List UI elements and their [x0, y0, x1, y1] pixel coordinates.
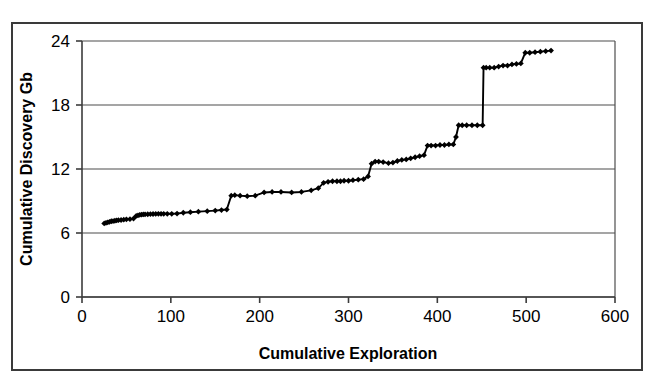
gridlines: [82, 41, 615, 297]
data-point: [399, 157, 405, 163]
y-tick-label-24: 24: [51, 32, 70, 51]
y-tick-label-18: 18: [51, 96, 70, 115]
data-point: [496, 64, 502, 70]
x-tick-label-400: 400: [423, 307, 451, 326]
data-point: [412, 154, 418, 160]
x-tick-label-100: 100: [157, 307, 185, 326]
data-point: [299, 189, 305, 195]
x-tick-label-600: 600: [601, 307, 629, 326]
data-series-group: [101, 48, 554, 227]
series-line-cumulative-discovery: [104, 51, 551, 224]
data-point: [355, 177, 361, 183]
data-point: [180, 210, 186, 216]
data-point: [403, 157, 409, 163]
data-point: [408, 155, 414, 161]
y-tick-label-12: 12: [51, 160, 70, 179]
data-point: [289, 190, 295, 196]
data-point: [537, 49, 543, 55]
data-point: [474, 122, 480, 128]
data-point: [224, 207, 230, 213]
x-axis-ticks: 0100200300400500600: [77, 297, 629, 326]
data-point: [543, 48, 549, 54]
data-point: [453, 134, 459, 140]
data-point: [187, 209, 193, 215]
y-tick-label-6: 6: [61, 224, 70, 243]
data-point: [195, 209, 201, 215]
data-point: [527, 50, 533, 56]
data-point: [464, 122, 470, 128]
data-point: [417, 153, 423, 159]
data-point: [232, 192, 238, 198]
data-point: [380, 159, 386, 165]
figure-container: 06121824 0100200300400500600 Cumulative …: [0, 0, 663, 392]
data-point: [421, 152, 427, 158]
data-point: [204, 208, 210, 214]
data-point: [244, 193, 250, 199]
y-axis-ticks: 06121824: [51, 32, 82, 307]
data-point: [480, 122, 486, 128]
x-tick-label-500: 500: [512, 307, 540, 326]
data-point: [252, 193, 258, 199]
data-point: [548, 48, 554, 54]
x-tick-label-0: 0: [77, 307, 86, 326]
data-point: [350, 177, 356, 183]
data-point: [491, 65, 497, 71]
data-point: [509, 62, 515, 68]
data-point: [433, 143, 439, 149]
y-axis-title: Cumulative Discovery Gb: [18, 72, 35, 266]
chart-canvas: 06121824 0100200300400500600 Cumulative …: [0, 0, 663, 392]
data-point: [346, 178, 352, 184]
data-point: [442, 142, 448, 148]
data-point: [376, 159, 382, 165]
data-point: [325, 179, 331, 185]
data-point: [237, 193, 243, 199]
data-point: [261, 190, 267, 196]
data-point: [169, 211, 175, 217]
y-tick-label-0: 0: [61, 288, 70, 307]
data-point: [174, 211, 180, 217]
data-point: [513, 61, 519, 67]
data-point: [269, 189, 275, 195]
data-point: [308, 187, 314, 193]
data-point: [278, 189, 284, 195]
data-point: [450, 142, 456, 148]
data-point: [219, 207, 225, 213]
data-point: [505, 63, 511, 69]
x-tick-label-300: 300: [334, 307, 362, 326]
data-point: [469, 122, 475, 128]
x-axis-title: Cumulative Exploration: [259, 345, 438, 362]
data-point: [518, 61, 524, 67]
data-point: [386, 160, 392, 166]
series-markers-cumulative-discovery: [101, 48, 554, 227]
data-point: [212, 208, 218, 214]
x-tick-label-200: 200: [245, 307, 273, 326]
data-point: [532, 49, 538, 55]
